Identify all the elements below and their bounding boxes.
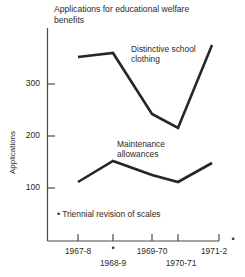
series-label-distinctive-school-clothing: Distinctive school clothing [131,44,196,64]
footnote-text: Triennial revision of scales [62,209,160,219]
x-tick-label-1967-8: 1967-8 [65,246,91,256]
series-label-maintenance-allowances: Maintenance allowances [117,139,165,159]
footnote: •Triennial revision of scales [57,209,161,219]
revision-marker-star-icon-1968-9: • [111,243,114,253]
series-line-maintenance-allowances [78,161,212,182]
revision-marker-star-icon-1971-2: • [231,234,234,244]
footnote-star-icon: • [57,209,60,219]
x-tick-label-1970-71: 1970-71 [166,258,197,268]
x-tick-label-1969-70: 1969-70 [137,246,168,256]
x-tick-label-1968-9: 1968-9 [100,258,126,268]
x-tick-label-1971-2: 1971-2 [201,246,227,256]
chart-figure: Applications for educational welfare ben… [0,0,245,277]
